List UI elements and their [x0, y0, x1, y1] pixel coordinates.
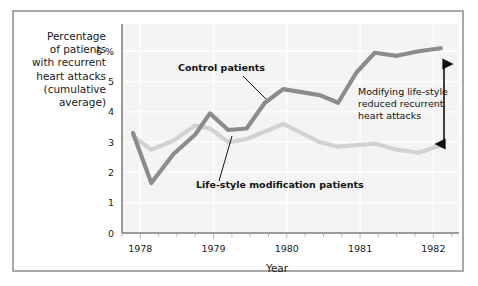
y-axis-tick-labels: 0123456 %: [96, 46, 114, 239]
y-axis-tick-label: 3: [108, 137, 114, 148]
x-axis-title: Year: [265, 262, 289, 274]
plot-area: 0123456 % 19781979198019811982: [96, 24, 459, 254]
chart-figure: Percentage of patients with recurrent he…: [0, 0, 478, 286]
gap-annotation-line-2: reduced recurrent: [358, 98, 444, 109]
y-axis-tick-label: 0: [108, 228, 114, 239]
lifestyle-patients-label: Life-style modification patients: [196, 179, 364, 190]
line-chart: 0123456 % 19781979198019811982 Year Cont…: [0, 0, 478, 286]
x-axis-tick-label: 1980: [275, 243, 299, 254]
x-axis-tick-labels: 19781979198019811982: [128, 243, 445, 254]
x-axis-tick-label: 1978: [128, 243, 152, 254]
gap-annotation-line-1: Modifying life-style: [358, 86, 448, 97]
y-axis-tick-label: 2: [108, 167, 114, 178]
y-axis-tick-label: 4: [108, 106, 114, 117]
y-axis-tick-label: 5: [108, 76, 114, 87]
y-axis-tick-label: 1: [108, 197, 114, 208]
gap-annotation-line-3: heart attacks: [358, 110, 421, 121]
control-patients-label: Control patients: [178, 62, 265, 73]
x-axis-tick-label: 1981: [348, 243, 372, 254]
x-axis-tick-label: 1979: [201, 243, 225, 254]
y-axis-tick-label: 6 %: [96, 46, 114, 57]
x-axis-tick-label: 1982: [421, 243, 445, 254]
